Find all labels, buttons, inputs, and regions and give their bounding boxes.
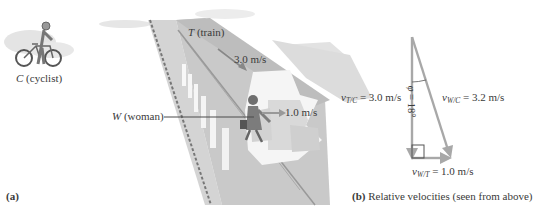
- v-wt-label: vW/T = 1.0 m/s: [412, 165, 474, 179]
- cyclist-letter: C: [16, 72, 23, 84]
- v-wt-value: = 1.0 m/s: [432, 165, 473, 177]
- angle-label: φ = 18°: [406, 86, 417, 118]
- woman-letter: W: [112, 110, 121, 122]
- cyclist-label: C (cyclist): [16, 72, 62, 84]
- panel-b-caption-text: Relative velocities (seen from above): [368, 190, 532, 202]
- v-wc-sub: W/C: [447, 96, 460, 105]
- panel-b-caption: (b) Relative velocities (seen from above…: [352, 190, 533, 202]
- cyclist-illustration: [4, 22, 74, 66]
- v-wt-sub: W/T: [417, 170, 430, 179]
- train-label: T (train): [188, 26, 224, 38]
- panel-a-label: (a): [6, 190, 19, 202]
- train-letter: T: [188, 26, 194, 38]
- train-desc: (train): [197, 26, 224, 38]
- angle-symbol: φ: [406, 86, 417, 92]
- v-wc-value: = 3.2 m/s: [463, 91, 504, 103]
- woman-label: W (woman): [112, 110, 164, 122]
- v-wc-label: vW/C = 3.2 m/s: [442, 91, 504, 105]
- v-tc-value: = 3.0 m/s: [360, 91, 401, 103]
- v-tc-label: vT/C = 3.0 m/s: [341, 91, 401, 105]
- woman-speed-label: 1.0 m/s: [285, 106, 317, 118]
- panel-b-label: (b): [352, 190, 365, 202]
- v-tc-sub: T/C: [346, 96, 357, 105]
- woman-desc: (woman): [124, 110, 164, 122]
- cyclist-desc: (cyclist): [26, 72, 62, 84]
- train-speed-label: 3.0 m/s: [234, 53, 266, 65]
- angle-value: = 18°: [406, 94, 417, 117]
